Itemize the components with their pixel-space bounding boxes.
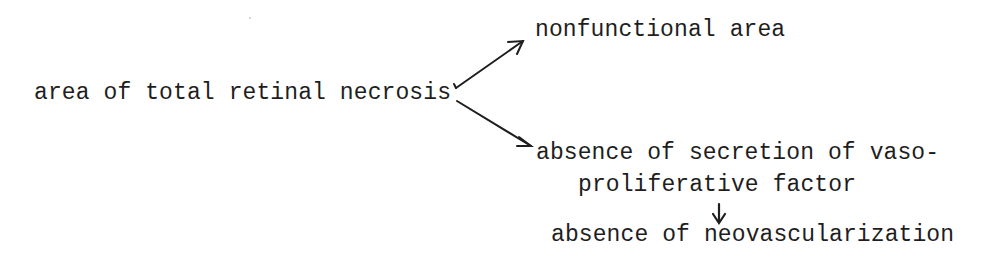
arrows-layer bbox=[0, 0, 985, 261]
arrow-to-nonfunctional-area-icon bbox=[454, 41, 523, 88]
arrow-down-to-neovascularization-icon bbox=[713, 204, 725, 223]
arrow-to-absence-secretion-icon bbox=[457, 101, 531, 146]
